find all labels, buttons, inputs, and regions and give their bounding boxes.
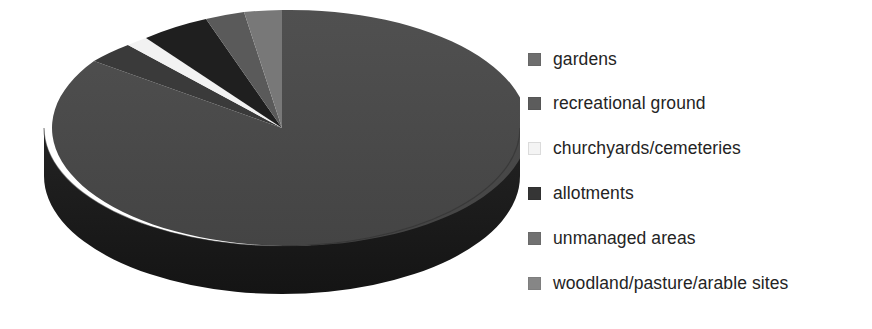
chart-plot-area — [0, 0, 520, 329]
legend-swatch-icon — [528, 97, 541, 110]
legend-swatch-icon — [528, 187, 541, 200]
pie-slice-gardens — [52, 10, 520, 246]
legend-item-label: woodland/pasture/arable sites — [553, 273, 788, 293]
legend-item-gardens[interactable]: gardens — [528, 48, 617, 70]
legend-item-label: allotments — [553, 183, 634, 203]
legend-item-churchyards-cemeteries[interactable]: churchyards/cemeteries — [528, 137, 741, 159]
legend-item-label: churchyards/cemeteries — [553, 138, 741, 158]
legend-item-label: unmanaged areas — [553, 228, 696, 248]
legend-swatch-icon — [528, 53, 541, 66]
pie-chart-svg — [0, 0, 520, 329]
pie-chart-figure: gardens recreational ground churchyards/… — [0, 0, 872, 329]
chart-legend: gardens recreational ground churchyards/… — [528, 44, 868, 296]
legend-item-woodland-pasture-arable-sites[interactable]: woodland/pasture/arable sites — [528, 272, 788, 294]
pie-top-face — [52, 10, 520, 246]
legend-swatch-icon — [528, 232, 541, 245]
legend-item-recreational-ground[interactable]: recreational ground — [528, 92, 706, 114]
legend-item-unmanaged-areas[interactable]: unmanaged areas — [528, 227, 696, 249]
legend-swatch-icon — [528, 277, 541, 290]
legend-item-allotments[interactable]: allotments — [528, 182, 634, 204]
legend-item-label: gardens — [553, 49, 617, 69]
legend-swatch-icon — [528, 142, 541, 155]
legend-item-label: recreational ground — [553, 93, 706, 113]
